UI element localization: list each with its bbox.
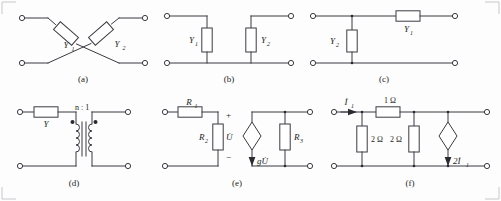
terminal-b-bottom-right[interactable] [288,60,293,65]
node-f-left-top [361,111,364,114]
circuit-figure: Y 1 Y 2 (a) Y 1 Y 2 (b) [0,0,501,201]
terminal-e-top-right[interactable] [307,109,312,114]
terminal-c-bottom-right[interactable] [452,60,457,65]
resistor-box-2ohm-left [357,126,367,152]
terminal-d-top-left[interactable] [17,109,22,114]
resistor-box-r1 [178,107,202,117]
node-c-bottom [351,62,354,65]
terminal-e-top-left[interactable] [162,109,167,114]
caption-c: (c) [379,74,389,84]
terminal-f-top-left[interactable] [331,109,336,114]
label-2i1-f: 2İ [453,156,462,166]
dot-marking-secondary [94,120,98,124]
terminal-c-bottom-left[interactable] [310,60,315,65]
panel-f: İ 1 1 Ω 2 Ω 2 Ω 2İ 1 (f) [331,96,489,188]
panel-c: Y 1 Y 2 (c) [310,11,457,84]
node-f-right-bottom [413,165,416,168]
label-transformer-ratio: n : 1 [75,103,89,112]
label-u-e: U̇ [226,132,233,142]
terminal-f-bottom-right[interactable] [484,163,489,168]
admittance-box-y1-b [202,28,212,52]
panel-b: Y 1 Y 2 (b) [164,13,293,84]
label-i1-f-sub: 1 [351,103,354,109]
label-2ohm-right-f: 2 Ω [390,135,402,144]
terminal-b-top-left[interactable] [164,13,169,18]
caption-f: (f) [406,178,415,188]
current-arrow-head-f [348,109,357,116]
terminal-b-top-right[interactable] [288,13,293,18]
node-f-src-bottom [447,165,450,168]
node-f-left-bottom [361,165,364,168]
label-y1-c-sub: 1 [410,30,413,36]
terminal-f-bottom-left[interactable] [331,163,336,168]
polarity-minus-e: − [226,152,231,162]
admittance-box-y1-c [396,11,420,21]
transformer-primary-coil [76,124,80,152]
label-y1-b-sub: 1 [195,41,198,47]
label-y1-a-sub: 1 [72,46,75,52]
admittance-box-y2-c [347,30,357,52]
panel-a: Y 1 Y 2 (a) [19,15,147,84]
node-e-bottom [284,165,287,168]
diag-a2-seg1 [48,44,91,64]
resistor-box-r3 [280,124,290,150]
caption-e: (e) [232,178,242,188]
label-r3-e-sub: 3 [299,138,303,144]
caption-b: (b) [224,74,235,84]
terminal-a-bottom-left[interactable] [19,60,24,65]
panel-d: Y n : 1 (d) [17,103,130,188]
terminal-d-bottom-left[interactable] [17,163,22,168]
dependent-current-source-e [243,122,261,150]
label-y-d: Y [43,119,49,129]
node-c-top [351,15,354,18]
terminal-d-bottom-right[interactable] [125,163,130,168]
node-f-src-top [447,111,450,114]
dependent-current-source-f [439,122,457,150]
label-y2-b-sub: 2 [267,41,270,47]
terminal-c-top-right[interactable] [452,13,457,18]
label-y2-c-sub: 2 [336,42,339,48]
node-f-right-top [413,111,416,114]
polarity-plus-e: + [226,110,231,120]
transformer-secondary-coil [89,124,93,152]
label-i1-f: İ [344,97,349,107]
label-2i1-f-sub: 1 [466,162,469,168]
label-gu-e: gU̇ [257,156,269,166]
terminal-d-top-right[interactable] [125,109,130,114]
label-y2-a-sub: 2 [123,45,126,51]
label-1ohm-f: 1 Ω [384,96,396,105]
label-r2-e-sub: 2 [205,138,208,144]
dot-marking-primary [71,120,75,124]
source-arrow-f [445,157,452,166]
diag-a1-seg1 [48,18,56,25]
label-y2-a: Y [114,39,120,49]
caption-a: (a) [78,74,88,84]
diag-a2-seg2 [112,18,120,24]
terminal-a-top-left[interactable] [19,15,24,20]
caption-d: (d) [69,178,80,188]
label-r2-e: R [198,132,205,142]
terminal-c-top-left[interactable] [310,13,315,18]
terminal-f-top-right[interactable] [484,109,489,114]
label-r1-e: R [185,97,192,107]
source-arrow-e [249,157,256,166]
label-2ohm-left-f: 2 Ω [371,135,383,144]
terminal-e-bottom-right[interactable] [307,163,312,168]
resistor-box-1ohm [376,107,400,117]
panel-e: + U̇ − gU̇ R 1 R 2 R 3 (e) [162,97,312,188]
node-e-top [284,111,287,114]
terminal-a-bottom-right[interactable] [142,60,147,65]
admittance-box-y2 [89,22,114,46]
terminal-b-bottom-left[interactable] [164,60,169,65]
resistor-box-2ohm-right [409,126,419,152]
label-r3-e: R [293,132,300,142]
admittance-box-y2-b [246,28,256,52]
resistor-box-r2 [213,124,223,150]
admittance-box-y-d [34,107,58,117]
terminal-a-top-right[interactable] [142,15,147,20]
label-r1-e-sub: 1 [195,103,198,109]
terminal-e-bottom-left[interactable] [162,163,167,168]
